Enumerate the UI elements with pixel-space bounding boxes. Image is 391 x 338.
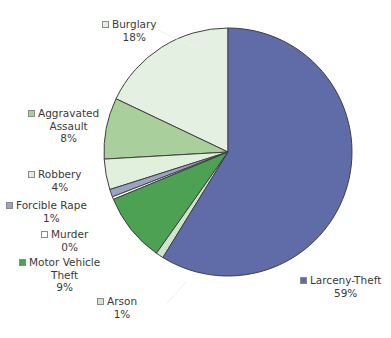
pie-slice-group: [104, 28, 352, 276]
pie-label-text: AggravatedAssault8%: [38, 107, 99, 145]
leader-line: [167, 282, 186, 303]
pie-label-percent: 59%: [310, 287, 381, 300]
legend-swatch-icon: [41, 231, 48, 238]
legend-swatch-icon: [97, 298, 104, 305]
pie-label-text: Forcible Rape1%: [16, 199, 87, 224]
pie-label-name: Robbery: [38, 168, 82, 181]
pie-label-name: Murder: [51, 228, 88, 241]
pie-label-percent: 4%: [38, 181, 82, 194]
legend-swatch-icon: [28, 171, 35, 178]
pie-label-forcible-rape[interactable]: Forcible Rape1%: [6, 199, 87, 224]
legend-swatch-icon: [19, 259, 26, 266]
legend-swatch-icon: [102, 21, 109, 28]
pie-chart: Burglary18%AggravatedAssault8%Robbery4%F…: [0, 0, 391, 338]
legend-swatch-icon: [300, 277, 307, 284]
pie-label-murder[interactable]: Murder0%: [41, 228, 88, 253]
pie-label-name: Motor VehicleTheft: [29, 256, 100, 281]
pie-label-name: AggravatedAssault: [38, 107, 99, 132]
pie-label-text: Murder0%: [51, 228, 88, 253]
pie-label-text: Arson1%: [107, 295, 137, 320]
pie-label-percent: 9%: [29, 281, 100, 294]
pie-label-text: Robbery4%: [38, 168, 82, 193]
pie-label-name: Forcible Rape: [16, 199, 87, 212]
pie-label-text: Burglary18%: [112, 18, 157, 43]
pie-label-percent: 18%: [112, 31, 157, 44]
pie-label-percent: 1%: [16, 212, 87, 225]
pie-label-name: Arson: [107, 295, 137, 308]
pie-label-robbery[interactable]: Robbery4%: [28, 168, 82, 193]
pie-label-larceny-theft[interactable]: Larceny-Theft59%: [300, 274, 381, 299]
pie-label-percent: 1%: [107, 308, 137, 321]
pie-label-motor-vehicle-theft[interactable]: Motor VehicleTheft9%: [19, 256, 100, 294]
pie-label-name: Larceny-Theft: [310, 274, 381, 287]
legend-swatch-icon: [6, 202, 13, 209]
pie-label-aggravated-assault[interactable]: AggravatedAssault8%: [28, 107, 99, 145]
pie-label-text: Larceny-Theft59%: [310, 274, 381, 299]
pie-label-text: Motor VehicleTheft9%: [29, 256, 100, 294]
pie-label-burglary[interactable]: Burglary18%: [102, 18, 157, 43]
pie-label-percent: 8%: [38, 132, 99, 145]
pie-label-arson[interactable]: Arson1%: [97, 295, 137, 320]
pie-label-name: Burglary: [112, 18, 157, 31]
pie-label-percent: 0%: [51, 241, 88, 254]
legend-swatch-icon: [28, 110, 35, 117]
